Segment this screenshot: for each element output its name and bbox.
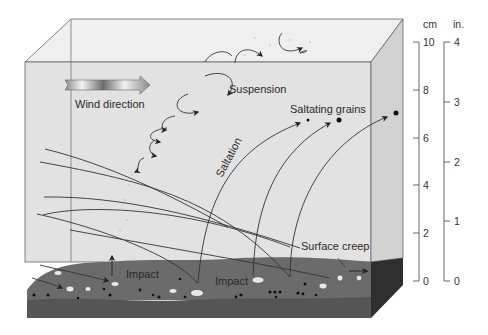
in-tick-1: 1 <box>454 215 460 227</box>
inch-scale: in. 4 3 2 1 0 <box>444 18 464 287</box>
cm-tick-0: 0 <box>423 275 429 287</box>
in-tick-2: 2 <box>454 156 460 168</box>
ground-layer <box>27 257 403 318</box>
cm-tick-2: 2 <box>423 227 429 239</box>
cm-tick-4: 4 <box>423 179 429 191</box>
cm-tick-8: 8 <box>423 84 429 96</box>
label-surface-creep: Surface creep <box>301 240 369 252</box>
box-top-face <box>25 19 403 62</box>
in-tick-4: 4 <box>454 36 460 48</box>
in-unit-label: in. <box>453 18 464 30</box>
wind-transport-diagram: Wind direction Suspension Saltating grai… <box>0 0 488 335</box>
soil-side <box>371 258 403 318</box>
soil-front <box>27 297 371 318</box>
label-wind-direction: Wind direction <box>75 98 145 110</box>
in-tick-3: 3 <box>454 96 460 108</box>
box-side-face <box>371 19 403 262</box>
cm-scale: cm 10 8 6 4 2 0 <box>413 18 437 287</box>
label-impact-1: Impact <box>126 268 159 280</box>
label-suspension: Suspension <box>229 83 287 95</box>
cm-tick-6: 6 <box>423 132 429 144</box>
cm-unit-label: cm <box>423 18 437 30</box>
label-saltating-grains: Saltating grains <box>290 103 366 115</box>
cm-tick-10: 10 <box>423 36 435 48</box>
in-tick-0: 0 <box>454 275 460 287</box>
box-front-face <box>25 62 371 262</box>
label-impact-2: Impact <box>215 275 248 287</box>
